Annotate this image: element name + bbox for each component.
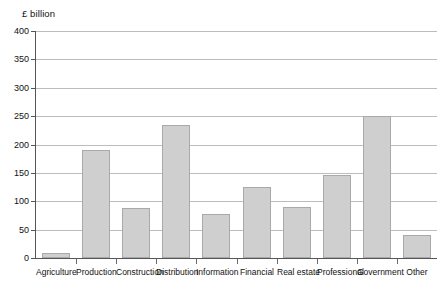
x-tick-mark (317, 259, 318, 264)
y-tick-label: 150 (3, 169, 29, 178)
y-tick-label: 300 (3, 84, 29, 93)
y-axis-unit-label: £ billion (22, 8, 55, 19)
x-tick-mark (237, 259, 238, 264)
gridline (36, 88, 437, 89)
y-tick-label: 100 (3, 197, 29, 206)
x-axis-label-construction: Construction (116, 268, 156, 277)
bar[interactable] (283, 207, 311, 258)
gridline (36, 59, 437, 60)
bar[interactable] (82, 150, 110, 258)
x-tick-mark (277, 259, 278, 264)
bar[interactable] (122, 208, 150, 258)
y-tick-label: 250 (3, 112, 29, 121)
x-tick-mark (76, 259, 77, 264)
x-tick-mark (397, 259, 398, 264)
bar[interactable] (403, 235, 431, 258)
x-axis-line (35, 258, 437, 259)
y-axis-line (35, 31, 36, 259)
bar[interactable] (42, 253, 70, 258)
y-tick-label: 400 (3, 27, 29, 36)
bar[interactable] (202, 214, 230, 258)
x-axis-label-other: Other (397, 268, 437, 277)
x-tick-mark (357, 259, 358, 264)
y-tick-label: 350 (3, 55, 29, 64)
x-tick-mark (116, 259, 117, 264)
y-tick-label: 200 (3, 141, 29, 150)
x-axis-label-production: Production (76, 268, 116, 277)
bar[interactable] (243, 187, 271, 258)
bar-chart: £ billion 050100150200250300350400 Agric… (0, 0, 445, 284)
x-axis-label-government: Government (357, 268, 397, 277)
x-axis-label-real-estate: Real estate (277, 268, 317, 277)
bar[interactable] (162, 125, 190, 258)
x-axis-label-distribution: Distribution (156, 268, 196, 277)
x-tick-mark (156, 259, 157, 264)
gridline (36, 31, 437, 32)
x-axis-label-financial: Financial (237, 268, 277, 277)
x-tick-mark (196, 259, 197, 264)
y-tick-label: 50 (3, 226, 29, 235)
bar[interactable] (363, 116, 391, 258)
bar[interactable] (323, 175, 351, 258)
y-tick-label: 0 (3, 254, 29, 263)
x-axis-label-professional: Professional (317, 268, 357, 277)
x-axis-label-information: Information (196, 268, 236, 277)
x-axis-label-agriculture: Agriculture (36, 268, 76, 277)
